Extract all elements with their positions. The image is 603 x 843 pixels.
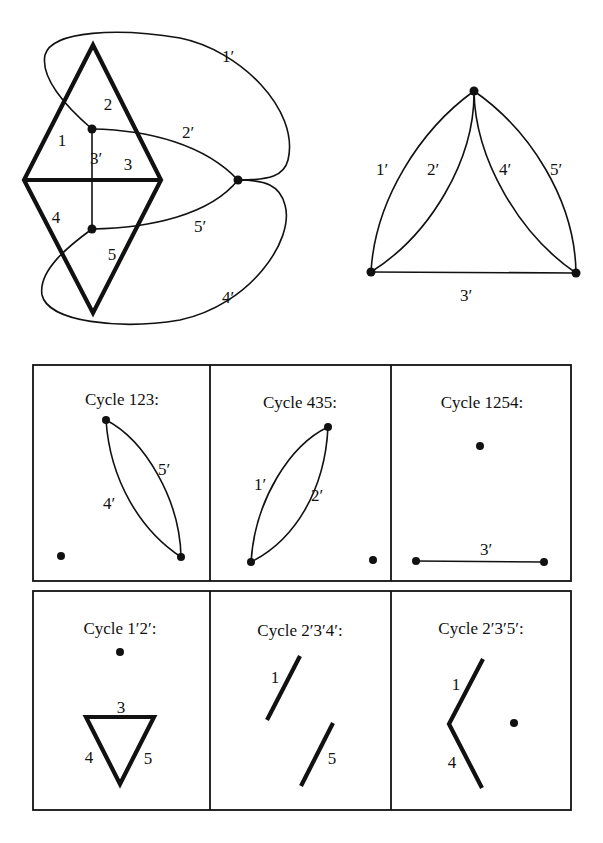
cycle-edge-label: 3′: [480, 540, 492, 559]
cycle-1254-vertex-b: [540, 558, 548, 566]
dual-edge-4prime: [42, 180, 287, 324]
dual-graph-edge-label: 3′: [460, 286, 472, 305]
cycle-edge-label: 5′: [158, 460, 170, 479]
cycle-2p3p5p-vertex-isolated: [510, 719, 518, 727]
cycle-435-vertex-isolated: [369, 556, 377, 564]
cycle-123-edge-5prime: [106, 420, 181, 557]
cycle-1254-edge-3prime: [416, 561, 544, 562]
cycle-title: Cycle 2′3′5′:: [438, 619, 523, 638]
dual-graph-edge-5prime: [474, 91, 576, 273]
cycle-title: Cycle 2′3′4′:: [257, 621, 342, 640]
cycle-edge-label: 4: [448, 753, 457, 772]
dual-graph-edge-2prime: [371, 91, 474, 272]
cycle-1254-vertex-isolated: [476, 442, 484, 450]
cycle-edge-label: 1: [271, 668, 280, 687]
primal-labels: 123451′2′3′5′4′: [52, 47, 234, 307]
cycle-435-vertex-b: [247, 558, 255, 566]
cycle-123-vertex-isolated: [57, 552, 65, 560]
cycle-edge-label: 1′: [254, 475, 266, 494]
cycle-123-vertex-a: [102, 416, 110, 424]
dual-graph-vertex-right: [572, 269, 581, 278]
dual-graph-vertex-top: [470, 87, 479, 96]
cycle-435-vertex-a: [324, 423, 332, 431]
dual-vertex-top: [88, 125, 97, 134]
primal-dual-edge-label: 4′: [222, 288, 234, 307]
cycle-edge-label: 5: [328, 749, 337, 768]
cycle-edge-label: 4′: [103, 494, 115, 513]
primal-face-label: 5: [108, 245, 117, 264]
cycle-edge-label: 5: [144, 749, 153, 768]
dual-vertex-bottom: [88, 225, 97, 234]
dual-graph-edge-label: 1′: [376, 160, 388, 179]
cycle-1p2p-vertex-isolated: [116, 648, 124, 656]
cycle-title: Cycle 1′2′:: [83, 619, 156, 638]
planar-dual-figure: 123451′2′3′5′4′ 1′2′4′5′3′: [0, 0, 603, 843]
primal-face-label: 3: [124, 155, 133, 174]
cycle-grid: Cycle 123:5′4′Cycle 435:1′2′Cycle 1254:3…: [33, 365, 571, 810]
dual-graph-edge-label: 2′: [427, 160, 439, 179]
dual-graph-edge-1prime: [371, 91, 474, 272]
cycle-edge-label: 3: [117, 698, 126, 717]
cycle-edge-label: 2′: [311, 486, 323, 505]
cycle-edge-label: 1: [452, 675, 461, 694]
dual-graph-edge-label: 4′: [499, 160, 511, 179]
cycle-title: Cycle 435:: [263, 393, 337, 412]
dual-edge-2prime: [92, 129, 238, 180]
cycle-title: Cycle 123:: [85, 390, 159, 409]
cycle-title: Cycle 1254:: [441, 393, 524, 412]
dual-graph-edge-4prime: [474, 91, 576, 273]
primal-dual-edge-label: 5′: [194, 217, 206, 236]
cycle-123-vertex-b: [177, 553, 185, 561]
primal-face-label: 4: [52, 208, 61, 227]
dual-vertex-outer: [234, 176, 243, 185]
dual-graph-edge-3prime: [371, 272, 576, 273]
cycle-edge-label: 4: [85, 748, 94, 767]
cycle-123-edge-4prime: [106, 420, 181, 557]
cycle-1254-vertex-a: [412, 557, 420, 565]
primal-dual-edge-label: 3′: [90, 149, 102, 168]
dual-edge-5prime: [92, 180, 238, 229]
dual-graph-edge-label: 5′: [550, 160, 562, 179]
primal-graph: 123451′2′3′5′4′: [24, 32, 290, 324]
primal-dual-edge-label: 2′: [182, 123, 194, 142]
primal-face-label: 2: [104, 95, 113, 114]
primal-face-label: 1: [58, 131, 67, 150]
primal-dual-edge-label: 1′: [222, 47, 234, 66]
panel-cycle-123: [57, 416, 185, 561]
dual-graph-labels: 1′2′4′5′3′: [376, 160, 562, 305]
dual-graph-vertex-left: [367, 268, 376, 277]
dual-edge-1prime: [44, 32, 289, 180]
cycle-2p3p4p-edge-1: [267, 656, 300, 720]
dual-graph: 1′2′4′5′3′: [367, 87, 581, 306]
